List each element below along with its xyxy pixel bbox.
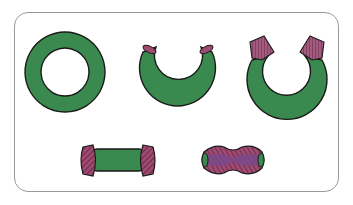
diagram-canvas: [0, 0, 353, 205]
capped-ring-shape: [247, 36, 327, 119]
straight-tube-shape: [81, 145, 155, 176]
pinched-capsule-shape: [202, 146, 264, 174]
closed-ring-shape: [25, 32, 105, 112]
open-ring-shape: [138, 44, 218, 117]
